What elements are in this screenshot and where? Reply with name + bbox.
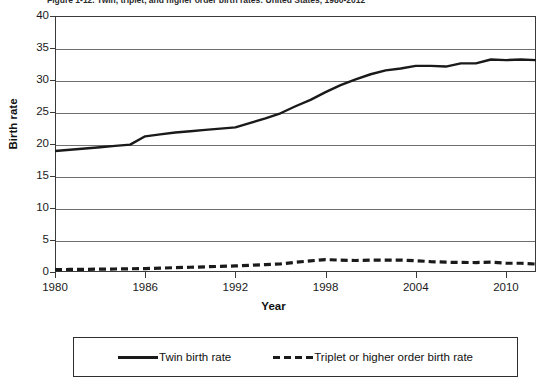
y-axis-tick-mark xyxy=(50,112,55,113)
y-axis-tick-mark xyxy=(50,48,55,49)
gridline xyxy=(56,81,535,82)
x-axis-tick-mark xyxy=(326,272,327,278)
y-axis-tick-label: 5 xyxy=(15,234,49,246)
x-axis-tick-mark xyxy=(235,272,236,278)
figure-caption: Figure 1-12. Twin, triplet, and higher o… xyxy=(47,0,542,6)
y-axis-tick-label: 20 xyxy=(15,138,49,150)
gridline xyxy=(56,49,535,50)
gridline xyxy=(56,113,535,114)
x-axis-tick-label: 2010 xyxy=(476,281,536,293)
y-axis-tick-mark xyxy=(50,176,55,177)
x-axis-title: Year xyxy=(0,300,547,312)
legend-label: Twin birth rate xyxy=(159,351,231,363)
y-axis-tick-label: 40 xyxy=(15,10,49,22)
legend-items: Twin birth rateTriplet or higher order b… xyxy=(74,338,517,376)
x-axis-tick-mark xyxy=(416,272,417,278)
y-axis-tick-mark xyxy=(50,16,55,17)
legend-label: Triplet or higher order birth rate xyxy=(314,351,473,363)
y-axis-tick-label: 0 xyxy=(15,266,49,278)
y-axis-tick-mark xyxy=(50,80,55,81)
y-axis-tick-label: 30 xyxy=(15,74,49,86)
legend: Twin birth rateTriplet or higher order b… xyxy=(73,337,518,377)
gridline xyxy=(56,145,535,146)
x-axis-tick-label: 1992 xyxy=(205,281,265,293)
x-axis-tick-label: 2004 xyxy=(386,281,446,293)
x-axis-tick-mark xyxy=(145,272,146,278)
y-axis-tick-mark xyxy=(50,240,55,241)
legend-dashed-line-icon xyxy=(273,356,313,359)
plot-area xyxy=(55,16,536,272)
x-axis-tick-mark xyxy=(55,272,56,278)
legend-item[interactable]: Triplet or higher order birth rate xyxy=(273,351,473,363)
y-axis-tick-label: 25 xyxy=(15,106,49,118)
x-axis-tick-mark xyxy=(506,272,507,278)
gridline xyxy=(56,177,535,178)
x-axis-tick-label: 1998 xyxy=(296,281,356,293)
x-axis-tick-label: 1986 xyxy=(115,281,175,293)
y-axis-tick-mark xyxy=(50,144,55,145)
chart-figure: Figure 1-12. Twin, triplet, and higher o… xyxy=(0,0,547,381)
x-axis-tick-label: 1980 xyxy=(25,281,85,293)
y-axis-tick-label: 10 xyxy=(15,202,49,214)
legend-solid-line-icon xyxy=(118,356,158,359)
legend-item[interactable]: Twin birth rate xyxy=(118,351,231,363)
y-axis-tick-mark xyxy=(50,208,55,209)
y-axis-tick-label: 15 xyxy=(15,170,49,182)
gridline xyxy=(56,241,535,242)
gridline xyxy=(56,209,535,210)
y-axis-title: Birth rate xyxy=(7,79,19,169)
y-axis-tick-label: 35 xyxy=(15,42,49,54)
